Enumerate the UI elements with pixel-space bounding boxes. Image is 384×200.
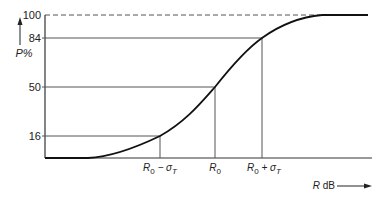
ytick-84: 84 (29, 32, 41, 44)
ytick-50: 50 (29, 81, 41, 93)
x-axis-label: R dB (313, 180, 336, 191)
xtick-minus: R0 − σT (143, 162, 178, 176)
xtick-center: R0 (209, 162, 221, 176)
right-arrow-icon (364, 184, 372, 189)
ytick-100: 100 (23, 9, 41, 21)
ytick-16: 16 (29, 130, 41, 142)
xtick-plus: R0 + σT (247, 162, 282, 176)
diagram-canvas: 100 84 50 16 P% R0 − σT R0 R0 + σT R dB (0, 0, 384, 200)
y-axis-label: P% (15, 47, 32, 59)
